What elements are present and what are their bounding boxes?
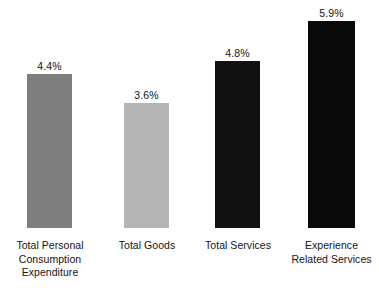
category-label-line: Expenditure: [0, 266, 100, 280]
category-label-total-goods: Total Goods: [104, 239, 190, 253]
category-label-line: Total Goods: [104, 239, 190, 253]
bar-value-label-4: 5.9%: [319, 7, 343, 19]
bar-rect-1[interactable]: [27, 74, 72, 228]
category-label-total-services: Total Services: [194, 239, 282, 253]
bar-rect-2[interactable]: [124, 103, 169, 228]
bar-chart: 4.4% 3.6% 4.8% 5.9% Total Personal Consu…: [0, 0, 379, 291]
bar-value-label-3: 4.8%: [225, 47, 249, 59]
bar-group-total-services: 4.8%: [215, 0, 260, 228]
bar-group-total-goods: 3.6%: [124, 0, 169, 228]
bar-value-label-2: 3.6%: [134, 89, 158, 101]
category-label-line: Total Personal: [0, 239, 100, 253]
bar-group-experience-related-services: 5.9%: [308, 0, 355, 228]
category-label-line: Total Services: [194, 239, 282, 253]
category-label-line: Related Services: [284, 253, 379, 267]
category-label-line: Experience: [284, 239, 379, 253]
category-axis-labels: Total Personal Consumption Expenditure T…: [0, 228, 379, 291]
category-label-line: Consumption: [0, 253, 100, 267]
bar-rect-3[interactable]: [215, 61, 260, 228]
category-label-total-personal-consumption-expenditure: Total Personal Consumption Expenditure: [0, 239, 100, 280]
bar-group-total-personal-consumption-expenditure: 4.4%: [27, 0, 72, 228]
plot-area: 4.4% 3.6% 4.8% 5.9%: [0, 0, 379, 228]
bar-value-label-1: 4.4%: [37, 60, 61, 72]
bar-rect-4[interactable]: [308, 21, 355, 228]
category-label-experience-related-services: Experience Related Services: [284, 239, 379, 266]
